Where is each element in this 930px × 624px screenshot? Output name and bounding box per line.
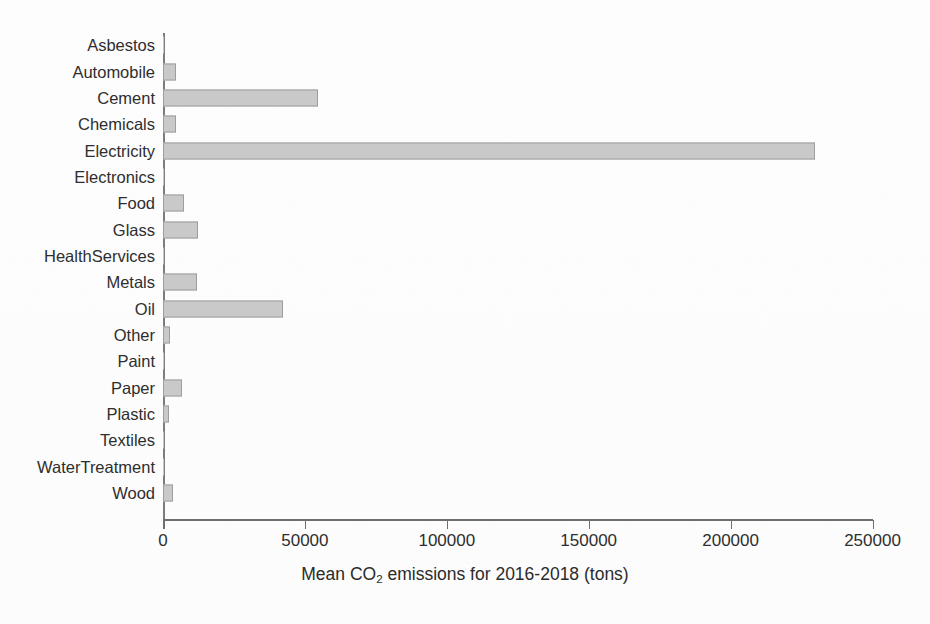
bar-other — [163, 327, 170, 344]
bar-food — [163, 195, 184, 212]
y-axis-label-metals: Metals — [106, 274, 164, 291]
y-axis-label-chemicals: Chemicals — [78, 116, 164, 133]
bar-oil — [163, 300, 283, 317]
x-tick-label-200000: 200000 — [702, 532, 759, 549]
x-axis-title-after: emissions for 2016-2018 (tons) — [383, 564, 629, 584]
bar-paint — [163, 353, 164, 370]
y-axis-label-textiles: Textiles — [100, 432, 164, 449]
y-axis-label-food: Food — [117, 195, 164, 212]
bar-asbestos — [163, 37, 164, 54]
x-tick-100000 — [447, 520, 449, 529]
y-axis-label-other: Other — [114, 327, 164, 344]
bar-chart: AsbestosAutomobileCementChemicalsElectri… — [0, 0, 930, 624]
bar-plastic — [163, 406, 169, 423]
bar-paper — [163, 379, 182, 396]
x-tick-label-250000: 250000 — [844, 532, 901, 549]
x-tick-0 — [163, 520, 165, 529]
x-tick-label-100000: 100000 — [418, 532, 475, 549]
y-axis-label-watertreatment: WaterTreatment — [37, 459, 164, 476]
bar-glass — [163, 221, 198, 238]
y-axis-label-electricity: Electricity — [84, 142, 164, 159]
y-axis-label-paper: Paper — [111, 380, 164, 397]
y-axis-label-paint: Paint — [117, 353, 164, 370]
y-axis-label-plastic: Plastic — [106, 406, 164, 423]
x-tick-label-150000: 150000 — [560, 532, 617, 549]
bar-automobile — [163, 63, 176, 80]
x-tick-200000 — [731, 520, 733, 529]
bar-wood — [163, 485, 173, 502]
bar-chemicals — [163, 116, 176, 133]
x-axis-title-subscript: 2 — [376, 573, 382, 585]
y-axis-label-electronics: Electronics — [74, 169, 164, 186]
x-tick-label-50000: 50000 — [281, 532, 328, 549]
bar-electricity — [163, 142, 815, 159]
x-tick-50000 — [305, 520, 307, 529]
y-axis-label-wood: Wood — [112, 485, 164, 502]
y-axis-label-healthservices: HealthServices — [44, 248, 164, 265]
y-axis-label-cement: Cement — [97, 90, 164, 107]
x-tick-label-0: 0 — [158, 532, 167, 549]
y-axis-label-glass: Glass — [113, 221, 164, 238]
bar-cement — [163, 89, 318, 106]
chart-page: AsbestosAutomobileCementChemicalsElectri… — [0, 0, 930, 624]
y-axis-label-asbestos: Asbestos — [87, 37, 164, 54]
bar-electronics — [163, 168, 164, 185]
x-axis-line — [163, 519, 873, 521]
x-tick-250000 — [873, 520, 875, 529]
x-axis-title-before: Mean CO — [301, 564, 376, 584]
bar-metals — [163, 274, 197, 291]
y-axis-label-automobile: Automobile — [72, 63, 164, 80]
x-tick-150000 — [589, 520, 591, 529]
x-axis-title: Mean CO2 emissions for 2016-2018 (tons) — [0, 566, 930, 584]
bar-textiles — [163, 432, 164, 449]
y-axis-label-oil: Oil — [135, 300, 164, 317]
